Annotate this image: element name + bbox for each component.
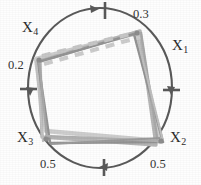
node-marker-x2[interactable]: [158, 138, 163, 143]
node-marker-x1[interactable]: [134, 30, 139, 35]
node-label-x3-sub: 3: [28, 136, 34, 147]
node-label-x2: X2: [170, 130, 186, 147]
node-label-x4: X4: [22, 20, 38, 37]
node-label-x3-text: X: [17, 129, 28, 145]
edge-weight-left: 0.2: [8, 59, 24, 72]
right-strut-group: [136, 32, 163, 143]
node-label-x4-sub: 4: [33, 26, 39, 37]
node-label-x2-text: X: [170, 129, 181, 145]
node-label-x3: X3: [17, 130, 33, 147]
dashed-connectors-group: [42, 32, 140, 64]
node-label-x1-text: X: [172, 37, 183, 53]
edge-weight-bottom-right: 0.5: [150, 158, 166, 171]
edge-weight-bottom-left: 0.5: [40, 158, 56, 171]
node-marker-x3[interactable]: [43, 136, 48, 141]
right-strut-line-2: [136, 33, 163, 141]
node-label-x4-text: X: [22, 19, 33, 35]
figure-canvas: X4 X1 X3 X2 0.3 0.2 0.5 0.5: [0, 0, 201, 185]
arc-arrow-top: [90, 5, 99, 13]
node-label-x1-sub: 1: [183, 44, 189, 55]
node-marker-x4[interactable]: [36, 57, 41, 62]
node-label-x1: X1: [172, 38, 188, 55]
edge-weight-top-right: 0.3: [133, 8, 149, 21]
node-label-x2-sub: 2: [181, 136, 187, 147]
